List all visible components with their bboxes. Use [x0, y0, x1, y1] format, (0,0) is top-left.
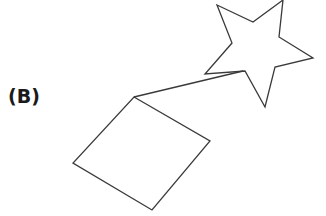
square-shape: [73, 97, 210, 210]
connector-line: [134, 71, 243, 97]
diagram-canvas: [0, 0, 326, 216]
star-shape: [205, 0, 313, 107]
